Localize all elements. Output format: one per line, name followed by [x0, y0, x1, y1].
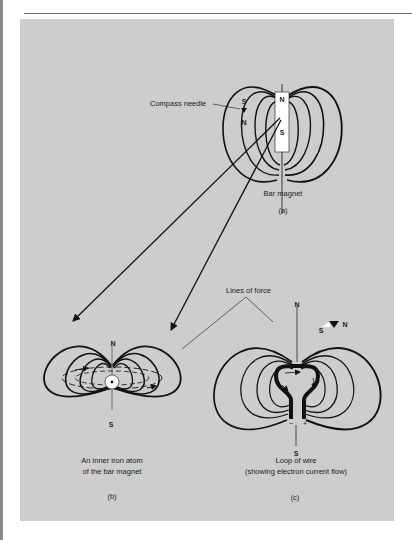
- lines-of-force-label: Lines of force: [226, 286, 271, 295]
- sublabel-c: (c): [291, 493, 300, 502]
- sublabel-a: (a): [278, 206, 288, 215]
- terminal-plus: +: [303, 420, 307, 427]
- orbit-arrow-right: [147, 386, 156, 388]
- compass-a-s: S: [242, 98, 247, 105]
- caption-c-line2: (showing electron current flow): [245, 467, 348, 476]
- magnet-s-label: S: [280, 129, 285, 136]
- atom-s-label: S: [109, 421, 114, 428]
- magnetism-diagram: N S S N Compass needle Bar magnet (a) Li…: [0, 0, 412, 540]
- current-arrow-top: [285, 372, 300, 373]
- compass-needle-icon: [241, 108, 247, 113]
- sublabel-b: (b): [107, 492, 117, 501]
- caption-b-line1: An inner iron atom: [81, 456, 142, 465]
- compass-c-n: N: [342, 321, 347, 328]
- compass-needle-c-icon: [329, 321, 339, 328]
- panel-c-wire-loop: [214, 306, 381, 446]
- loop-n-label: N: [294, 301, 299, 308]
- lines-of-force-leader: [182, 297, 273, 349]
- atom-n-label: N: [110, 340, 115, 347]
- bar-magnet-label: Bar magnet: [264, 189, 304, 198]
- nucleus-dot: [111, 381, 114, 384]
- caption-b-line2: of the bar magnet: [83, 467, 143, 476]
- compass-needle-label: Compass needle: [150, 99, 206, 108]
- magnet-n-label: N: [279, 96, 284, 103]
- caption-c-line1: Loop of wire: [276, 456, 317, 465]
- compass-a-n: N: [241, 119, 246, 126]
- terminal-minus: −: [289, 420, 293, 427]
- compass-c-s: S: [319, 327, 324, 334]
